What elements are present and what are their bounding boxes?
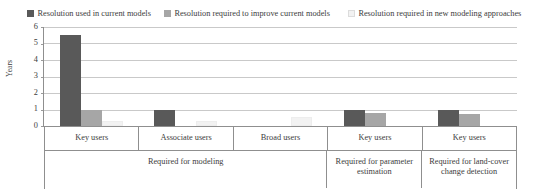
x-tier1-cell: Key users (327, 127, 421, 150)
x-axis-tier2-row: Required for modelingRequired for parame… (45, 151, 516, 188)
bar (154, 110, 175, 127)
bar-group (139, 27, 234, 126)
bar (438, 110, 459, 127)
y-tick-label: 0 (24, 122, 38, 130)
legend-item-current-models: Resolution used in current models (27, 10, 151, 18)
x-axis-label-table: Key usersAssociate usersBroad usersKey u… (44, 127, 517, 189)
bar-group (44, 27, 139, 126)
x-tier1-cell: Key users (45, 127, 138, 150)
y-tick-label: 3 (24, 72, 38, 80)
x-axis-tier1-row: Key usersAssociate usersBroad usersKey u… (45, 127, 516, 151)
bar (344, 110, 365, 127)
y-tick-label: 1 (24, 105, 38, 113)
bar (291, 117, 312, 126)
legend-label: Resolution used in current models (38, 10, 151, 18)
x-tier1-cell: Key users (422, 127, 516, 150)
legend-item-new-approaches: Resolution required in new modeling appr… (348, 10, 521, 18)
legend-swatch-icon (27, 10, 34, 17)
chart-legend: Resolution used in current models Resolu… (0, 7, 539, 21)
bar (60, 35, 81, 126)
bar-group (422, 27, 517, 126)
bar (365, 113, 386, 126)
plot-area (44, 27, 517, 126)
x-tier2-cell: Required for modeling (45, 151, 326, 188)
x-tier2-cell: Required for parameter estimation (326, 151, 421, 188)
y-tick-label: 2 (24, 89, 38, 97)
bar-group (233, 27, 328, 126)
legend-label: Resolution required to improve current m… (174, 10, 330, 18)
x-tier2-cell: Required for land-cover change detection (421, 151, 516, 188)
legend-swatch-icon (164, 10, 171, 17)
bar (459, 114, 480, 126)
bar-group (328, 27, 423, 126)
x-tier1-cell: Associate users (138, 127, 232, 150)
legend-label: Resolution required in new modeling appr… (358, 10, 521, 18)
x-tier1-cell: Broad users (233, 127, 327, 150)
y-tick-label: 6 (24, 23, 38, 31)
bar (81, 110, 102, 127)
y-tick-label: 5 (24, 39, 38, 47)
y-tick-label: 4 (24, 56, 38, 64)
legend-swatch-icon (348, 10, 355, 17)
legend-item-improve-models: Resolution required to improve current m… (164, 10, 330, 18)
bar-chart-figure: Resolution used in current models Resolu… (0, 0, 539, 192)
y-axis-title: Years (5, 44, 14, 94)
